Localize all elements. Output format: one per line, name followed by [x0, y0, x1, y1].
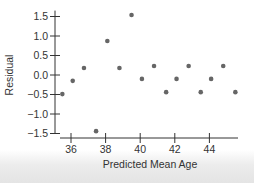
y-tick-label: 0.0	[33, 69, 48, 81]
x-tick-label: 44	[204, 143, 216, 155]
x-axis-label: Predicted Mean Age	[103, 158, 198, 170]
data-point	[209, 77, 214, 82]
data-point	[94, 129, 99, 134]
y-tick-label: 1.5	[33, 10, 48, 22]
residual-scatter-plot: 1.51.00.50.0−0.5−1.0−1.5 3638404244 Resi…	[0, 0, 254, 183]
data-point	[129, 13, 134, 18]
x-tick-label: 38	[100, 143, 112, 155]
y-tick-label: −1.0	[27, 108, 48, 120]
data-point	[198, 90, 203, 95]
data-points	[60, 13, 238, 134]
y-tick-label: 1.0	[33, 30, 48, 42]
data-point	[117, 66, 122, 71]
data-point	[221, 64, 226, 69]
y-axis-label: Residual	[3, 55, 15, 96]
y-tick-label: −0.5	[27, 88, 48, 100]
data-point	[105, 39, 110, 44]
y-tick-label: 0.5	[33, 49, 48, 61]
data-point	[233, 90, 238, 95]
x-tick-label: 36	[65, 143, 77, 155]
data-point	[152, 64, 157, 69]
x-tick-label: 40	[134, 143, 146, 155]
data-point	[140, 77, 145, 82]
data-point	[164, 90, 169, 95]
y-axis: 1.51.00.50.0−0.5−1.0−1.5	[27, 10, 60, 139]
data-point	[60, 92, 65, 97]
data-point	[70, 79, 75, 84]
data-point	[186, 64, 191, 69]
data-point	[82, 66, 87, 71]
x-axis: 3638404244	[60, 133, 238, 155]
y-tick-label: −1.5	[27, 127, 48, 139]
x-tick-label: 42	[169, 143, 181, 155]
data-point	[174, 77, 179, 82]
